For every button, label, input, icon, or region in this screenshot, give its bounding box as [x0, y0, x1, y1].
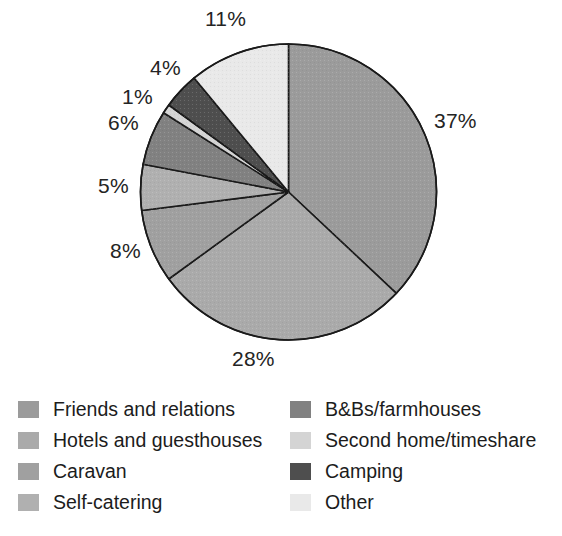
- legend-item[interactable]: Other: [290, 487, 548, 518]
- legend-color-swatch: [290, 494, 311, 511]
- legend-color-swatch: [290, 463, 311, 480]
- legend-item-label: Caravan: [53, 461, 127, 482]
- legend-color-swatch: [290, 432, 311, 449]
- pie-chart-plot-area: 11%4%1%6%5%8%37%28%: [0, 0, 562, 380]
- legend-color-swatch: [18, 463, 39, 480]
- pie-percentage-label: 6%: [108, 112, 139, 133]
- pie-percentage-label: 1%: [122, 86, 153, 107]
- pie-percentage-label: 8%: [110, 240, 141, 261]
- legend-item-label: B&Bs/farmhouses: [325, 399, 481, 420]
- pie-chart-svg: [0, 0, 562, 380]
- legend-color-swatch: [18, 432, 39, 449]
- legend-item[interactable]: Hotels and guesthouses: [18, 425, 290, 456]
- chart-legend: Friends and relationsB&Bs/farmhousesHote…: [18, 394, 548, 518]
- pie-chart-figure: 11%4%1%6%5%8%37%28% Friends and relation…: [0, 0, 562, 536]
- legend-item-label: Hotels and guesthouses: [53, 430, 262, 451]
- legend-item[interactable]: Friends and relations: [18, 394, 290, 425]
- legend-item-label: Other: [325, 492, 374, 513]
- pie-percentage-label: 11%: [205, 8, 246, 29]
- legend-item[interactable]: Caravan: [18, 456, 290, 487]
- legend-item-label: Second home/timeshare: [325, 430, 536, 451]
- legend-color-swatch: [290, 401, 311, 418]
- legend-color-swatch: [18, 401, 39, 418]
- legend-color-swatch: [18, 494, 39, 511]
- pie-percentage-label: 28%: [232, 348, 275, 369]
- pie-percentage-label: 4%: [150, 57, 181, 78]
- pie-percentage-label: 5%: [98, 175, 129, 196]
- legend-item[interactable]: Camping: [290, 456, 548, 487]
- legend-item-label: Camping: [325, 461, 403, 482]
- legend-item[interactable]: Second home/timeshare: [290, 425, 548, 456]
- legend-item-label: Friends and relations: [53, 399, 235, 420]
- legend-item[interactable]: B&Bs/farmhouses: [290, 394, 548, 425]
- pie-percentage-label: 37%: [434, 110, 477, 131]
- legend-item-label: Self-catering: [53, 492, 162, 513]
- legend-item[interactable]: Self-catering: [18, 487, 290, 518]
- pie-texture-overlay: [141, 44, 437, 340]
